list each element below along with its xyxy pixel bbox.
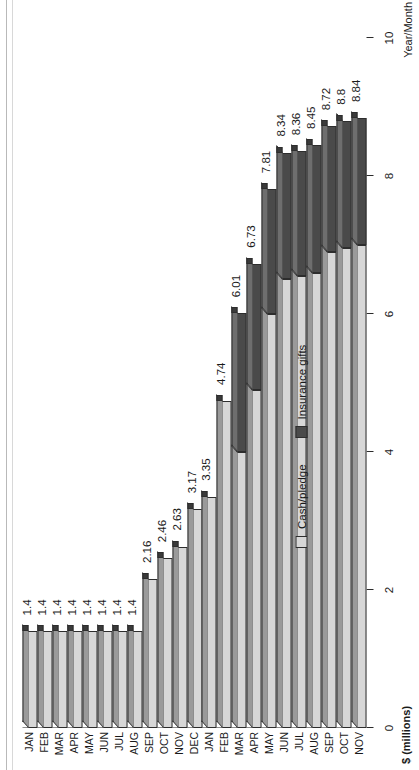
bar: 1.4: [67, 631, 82, 728]
legend-label: Cash/pledge: [295, 464, 307, 529]
category-axis-title: Year/Month: [401, 2, 413, 58]
bar-segment-cash-pledge: [266, 314, 276, 728]
category-label-jun-1994: JUN: [97, 732, 109, 768]
bar: 3.17: [187, 509, 202, 728]
bar-value-label: 6.73: [244, 221, 256, 247]
bar-end-cap: [172, 541, 178, 547]
bar-top-face-insurance-gifts: [231, 307, 237, 452]
category-label-feb-1994: FEB: [37, 732, 49, 768]
bar-top-face-cash-pledge: [201, 490, 207, 728]
category-label-oct-1994: OCT: [157, 732, 169, 768]
category-label-may-1994: MAY: [82, 732, 94, 768]
bar: 2.16: [142, 579, 157, 728]
bar-value-label: 3.35: [199, 454, 211, 480]
bar-end-cap: [321, 120, 327, 126]
bar-top-face-cash-pledge: [127, 625, 133, 728]
bar-top-face-cash-pledge: [37, 625, 43, 728]
bar: 6.01: [231, 313, 246, 728]
category-label-aug-1994: AUG: [127, 732, 139, 768]
bar-value-label: 1.4: [50, 595, 62, 615]
bar-top-face-cash-pledge: [276, 273, 282, 728]
bar-end-cap: [142, 573, 148, 579]
bar-segment-insurance-gifts: [311, 145, 321, 273]
bar-value-label: 8.45: [304, 103, 316, 129]
bar-end-cap: [37, 625, 43, 631]
bar: 8.84: [351, 118, 366, 728]
bar: 8.34: [276, 153, 291, 728]
bar-top-face-cash-pledge: [142, 572, 148, 728]
category-label-jul-1994: JUL: [112, 732, 124, 768]
bar-end-cap: [22, 625, 28, 631]
bar-segment-cash-pledge: [236, 452, 246, 728]
bar-segment-insurance-gifts: [251, 264, 261, 390]
category-label-sep-1994: SEP: [142, 732, 154, 768]
legend-swatch-icon: [295, 536, 307, 548]
value-axis-title: $ (millions): [399, 706, 411, 764]
legend-label: Insurance gifts: [295, 345, 307, 420]
bar-end-cap: [82, 625, 88, 631]
bar-value-label: 7.81: [259, 147, 271, 173]
category-label-jul-1995: JUL: [292, 732, 304, 768]
bar: 4.74: [216, 401, 231, 728]
bar-value-label: 8.84: [349, 76, 361, 102]
bar-end-cap: [157, 552, 163, 558]
value-axis-tick: [366, 727, 373, 728]
bar-value-label: 1.4: [35, 595, 47, 615]
bar-end-cap: [261, 183, 267, 189]
bar-segment-cash-pledge: [206, 497, 216, 728]
rotated-chart-canvas: $ (millions) Year/Month 0246810 1.41.41.…: [0, 0, 419, 770]
bar-end-cap: [112, 625, 118, 631]
bar: 8.72: [321, 126, 336, 728]
bar: 2.63: [172, 547, 187, 728]
category-label-jun-1995: JUN: [277, 732, 289, 768]
bar-value-label: 4.74: [214, 359, 226, 385]
bar-segment-cash-pledge: [311, 273, 321, 728]
bar-top-face-cash-pledge: [22, 625, 28, 728]
category-label-jan-1994: JAN: [22, 732, 34, 768]
bar-top-face-insurance-gifts: [261, 182, 267, 314]
bar-top-face-cash-pledge: [52, 625, 58, 728]
bar: 1.4: [52, 631, 67, 728]
bar-top-face-cash-pledge: [336, 242, 342, 728]
bar-end-cap: [231, 307, 237, 313]
category-label-nov-1994: NOV: [172, 732, 184, 768]
bar-top-face-cash-pledge: [351, 238, 357, 728]
bar: 1.4: [37, 631, 52, 728]
value-axis-tick: [366, 313, 373, 314]
bar-top-face-insurance-gifts: [291, 145, 297, 277]
bar-top-face-cash-pledge: [67, 625, 73, 728]
legend-item-cash-pledge: Cash/pledge: [295, 464, 307, 548]
category-label-sep-1995: SEP: [322, 732, 334, 768]
bar-segment-insurance-gifts: [296, 151, 306, 276]
category-label-apr-1995: APR: [247, 732, 259, 768]
bar-top-face-cash-pledge: [97, 625, 103, 728]
bar-segment-cash-pledge: [356, 245, 366, 728]
bar-top-face-cash-pledge: [231, 445, 237, 728]
bar-end-cap: [201, 491, 207, 497]
category-label-mar-1995: MAR: [232, 732, 244, 768]
value-axis-tick: [366, 37, 373, 38]
bar-value-label: 2.46: [155, 516, 167, 542]
bar-value-label: 1.4: [125, 595, 137, 615]
bar: 8.45: [306, 145, 321, 728]
bar: 1.4: [22, 631, 37, 728]
bar-top-face-insurance-gifts: [276, 146, 282, 280]
category-label-jan-1995: JAN: [202, 732, 214, 768]
bar: 1.4: [112, 631, 127, 728]
bar-value-label: 6.01: [229, 271, 241, 297]
category-label-aug-1995: AUG: [307, 732, 319, 768]
category-label-nov-1995: NOV: [352, 732, 364, 768]
bar: 7.81: [261, 189, 276, 728]
bar-top-face-cash-pledge: [187, 503, 193, 728]
bar-value-label: 3.17: [185, 467, 197, 493]
value-axis-tick: [366, 589, 373, 590]
bar-segment-cash-pledge: [341, 248, 351, 728]
bar: 1.4: [127, 631, 142, 728]
bar-top-face-cash-pledge: [157, 552, 163, 728]
bar-segment-insurance-gifts: [236, 313, 246, 452]
bar-value-label: 1.4: [20, 595, 32, 615]
bar-end-cap: [216, 395, 222, 401]
bar-value-label: 1.4: [95, 595, 107, 615]
bar-top-face-insurance-gifts: [306, 138, 312, 272]
value-axis-tick-label: 2: [382, 587, 394, 593]
